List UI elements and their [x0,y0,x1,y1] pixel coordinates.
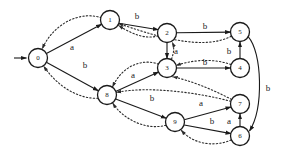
edge-9-7 [184,107,231,120]
node-5-label: 5 [238,28,242,36]
edge-0-8 [47,63,99,91]
edge-7-8 [116,90,231,102]
node-9[interactable]: 9 [166,113,185,132]
node-1[interactable]: 1 [101,11,120,30]
edge-8-0 [44,66,98,98]
node-3[interactable]: 3 [158,59,177,78]
automaton-diagram-canvas: 0 1 2 3 4 5 6 7 [0,0,284,158]
edge-label-9-6: b [210,116,215,126]
node-5[interactable]: 5 [231,23,250,42]
edge-label-0-1: a [70,42,74,52]
edge-label-1-2: b [135,11,140,21]
edge-label-8-9: b [150,93,155,103]
edge-8-3 [116,72,159,92]
edge-label-4-5: b [227,46,232,56]
node-1-label: 1 [108,16,112,24]
edge-9-6 [184,125,231,134]
node-0-label: 0 [36,54,40,62]
edge-label-8-3: a [131,70,135,80]
edge-label-2-3: a [174,46,178,56]
node-2[interactable]: 2 [158,24,177,43]
node-0[interactable]: 0 [29,49,48,68]
node-7[interactable]: 7 [231,95,250,114]
edge-2-5 [177,32,231,33]
edge-label-6-7: a [227,116,231,126]
node-8-label: 8 [105,91,109,99]
edge-5-6 [248,37,259,131]
edge-label-0-8: b [83,60,88,70]
edge-label-2-5: b [203,21,208,31]
node-9-label: 9 [173,118,177,126]
node-3-label: 3 [165,64,169,72]
edge-8-9 [116,99,167,118]
node-6[interactable]: 6 [231,127,250,146]
edge-7-3 [173,77,232,100]
edge-2-1 [119,26,159,37]
node-2-label: 2 [165,29,169,37]
edge-label-9-7: a [199,98,203,108]
node-4-label: 4 [238,64,242,72]
edge-label-5-6: b [266,83,271,93]
edge-label-3-4: b [203,57,208,67]
edge-0-1 [46,24,101,53]
node-6-label: 6 [238,132,242,140]
node-7-label: 7 [238,100,242,108]
node-4[interactable]: 4 [231,59,250,78]
node-8[interactable]: 8 [98,86,117,105]
automaton-graph: 0 1 2 3 4 5 6 7 [0,0,284,158]
